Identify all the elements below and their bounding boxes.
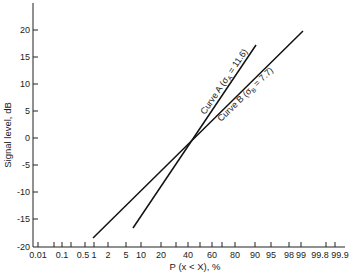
svg-text:-15: -15 xyxy=(17,214,30,224)
svg-text:0.1: 0.1 xyxy=(56,250,69,260)
svg-text:15: 15 xyxy=(20,52,30,62)
svg-text:5: 5 xyxy=(25,106,30,116)
svg-text:-5: -5 xyxy=(22,160,30,170)
svg-text:0.5: 0.5 xyxy=(77,250,90,260)
svg-text:40: 40 xyxy=(183,250,193,260)
svg-text:0.01: 0.01 xyxy=(29,250,47,260)
y-axis-title: Signal level, dB xyxy=(2,102,13,167)
curve-b-label: Curve B (σB = 7.7) xyxy=(215,65,275,124)
svg-text:90: 90 xyxy=(250,250,260,260)
svg-text:10: 10 xyxy=(136,250,146,260)
svg-text:-20: -20 xyxy=(17,242,30,252)
probability-chart: 20 15 10 5 0 -5 -10 -15 -20 0.01 0 xyxy=(0,0,351,273)
svg-text:60: 60 xyxy=(207,250,217,260)
curve-a-line xyxy=(133,45,256,228)
svg-text:1: 1 xyxy=(91,250,96,260)
svg-text:98: 98 xyxy=(284,250,294,260)
svg-text:-10: -10 xyxy=(17,187,30,197)
svg-text:20: 20 xyxy=(156,250,166,260)
svg-text:99.8: 99.8 xyxy=(311,250,329,260)
svg-text:5: 5 xyxy=(123,250,128,260)
svg-text:2: 2 xyxy=(105,250,110,260)
x-ticks xyxy=(38,242,335,247)
curve-b-line xyxy=(93,31,303,238)
svg-text:95: 95 xyxy=(266,250,276,260)
svg-text:10: 10 xyxy=(20,79,30,89)
svg-text:20: 20 xyxy=(20,25,30,35)
svg-text:0: 0 xyxy=(25,133,30,143)
curve-a-label: Curve A (σA = 11.6) xyxy=(198,47,250,117)
svg-text:99: 99 xyxy=(296,250,306,260)
svg-text:80: 80 xyxy=(230,250,240,260)
x-tick-labels: 0.01 0.1 0.5 1 2 5 10 20 40 60 80 90 95 … xyxy=(29,250,349,260)
y-tick-labels: 20 15 10 5 0 -5 -10 -15 -20 xyxy=(17,25,30,252)
svg-text:99.9: 99.9 xyxy=(331,250,349,260)
x-axis-title: P (x < X), % xyxy=(170,261,221,272)
y-ticks xyxy=(33,30,38,219)
